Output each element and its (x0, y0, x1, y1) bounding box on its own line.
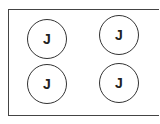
circle-button-top-left[interactable]: J (27, 19, 67, 59)
circle-button-bottom-left[interactable]: J (27, 64, 67, 104)
circle-button-top-right[interactable]: J (99, 15, 139, 55)
circle-button-bottom-right[interactable]: J (99, 63, 139, 103)
